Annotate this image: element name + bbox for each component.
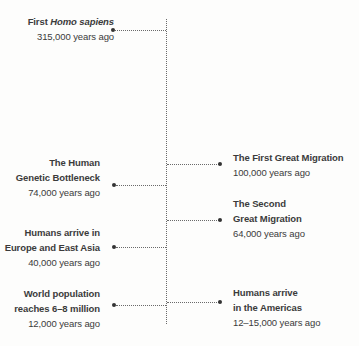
event-world-population: World population reaches 6–8 million 12,… (14, 286, 100, 331)
event-date: 12,000 years ago (14, 316, 100, 331)
event-date: 315,000 years ago (28, 29, 114, 44)
event-dot (218, 218, 222, 222)
event-title: First Homo sapiens (28, 14, 114, 29)
event-first-great-migration: The First Great Migration 100,000 years … (233, 150, 343, 180)
connector (115, 30, 166, 31)
event-title-line: in the Americas (233, 300, 320, 315)
event-first-homo-sapiens: First Homo sapiens 315,000 years ago (28, 14, 114, 44)
event-title-line: Genetic Bottleneck (16, 170, 100, 185)
connector (167, 220, 219, 221)
event-title-line: World population (14, 286, 100, 301)
event-americas: Humans arrive in the Americas 12–15,000 … (233, 285, 320, 330)
event-title-line: The Second (233, 196, 305, 211)
event-genetic-bottleneck: The Human Genetic Bottleneck 74,000 year… (16, 155, 100, 200)
event-date: 40,000 years ago (5, 255, 100, 270)
event-date: 74,000 years ago (16, 185, 100, 200)
event-europe-east-asia: Humans arrive in Europe and East Asia 40… (5, 225, 100, 270)
event-title-line: Europe and East Asia (5, 240, 100, 255)
event-second-great-migration: The Second Great Migration 64,000 years … (233, 196, 305, 241)
event-date: 100,000 years ago (233, 165, 343, 180)
event-dot (218, 300, 222, 304)
event-date: 64,000 years ago (233, 226, 305, 241)
event-title-line: Humans arrive (233, 285, 320, 300)
connector (116, 247, 166, 248)
connector (167, 164, 219, 165)
event-title-line: Humans arrive in (5, 225, 100, 240)
event-title-line: The Human (16, 155, 100, 170)
event-date: 12–15,000 years ago (233, 315, 320, 330)
event-title-line: Great Migration (233, 211, 305, 226)
timeline-axis (166, 19, 167, 324)
title-prefix: First (28, 16, 51, 27)
connector (116, 305, 166, 306)
connector (167, 302, 219, 303)
event-title-line: The First Great Migration (233, 150, 343, 165)
event-dot (218, 162, 222, 166)
connector (116, 185, 166, 186)
title-italic: Homo sapiens (50, 16, 114, 27)
event-title-line: reaches 6–8 million (14, 301, 100, 316)
